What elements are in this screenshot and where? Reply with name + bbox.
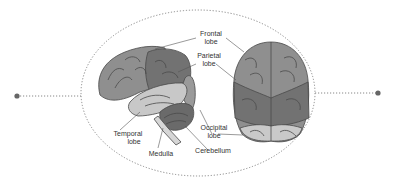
right-dot bbox=[375, 90, 380, 95]
label-frontal-line1: Frontal bbox=[196, 30, 226, 38]
label-frontal-line2: lobe bbox=[196, 38, 226, 46]
label-occipital-lobe: Occipital lobe bbox=[197, 124, 231, 140]
label-parietal-lobe: Parietal lobe bbox=[194, 52, 224, 68]
label-medulla: Medulla bbox=[146, 150, 176, 158]
left-dot bbox=[14, 93, 19, 98]
label-cerebellum-line1: Cerebellum bbox=[193, 147, 233, 155]
label-temporal-line2: lobe bbox=[110, 138, 146, 146]
label-parietal-line2: lobe bbox=[194, 60, 224, 68]
label-occipital-line2: lobe bbox=[197, 132, 231, 140]
label-medulla-line1: Medulla bbox=[146, 150, 176, 158]
top-view-brain bbox=[233, 42, 309, 142]
label-frontal-lobe: Frontal lobe bbox=[196, 30, 226, 46]
brain-diagram bbox=[0, 0, 393, 185]
label-cerebellum: Cerebellum bbox=[193, 147, 233, 155]
label-occipital-line1: Occipital bbox=[197, 124, 231, 132]
label-temporal-lobe: Temporal lobe bbox=[110, 130, 146, 146]
label-parietal-line1: Parietal bbox=[194, 52, 224, 60]
label-temporal-line1: Temporal bbox=[110, 130, 146, 138]
